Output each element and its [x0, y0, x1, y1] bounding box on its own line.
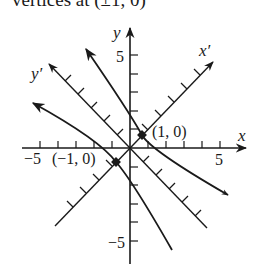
hyperbola-diagram: x y x′ y′ −5 5 5 −5 (1, 0) (−1, 0)	[0, 0, 260, 272]
y-prime-axis-label: y′	[29, 64, 43, 83]
x-prime-axis	[55, 62, 213, 226]
x-axis-label: x	[237, 126, 246, 145]
vertex-pos-label: (1, 0)	[152, 123, 187, 141]
hyperbola-upper-branch	[86, 49, 228, 195]
y-axis-label: y	[111, 23, 121, 42]
x-tick-label-pos5: 5	[215, 151, 223, 168]
vertex-neg-label: (−1, 0)	[52, 150, 96, 168]
x-prime-axis-label: x′	[198, 41, 211, 60]
x-tick-label-neg5: −5	[24, 150, 41, 167]
y-prime-axis	[49, 64, 207, 228]
y-tick-label-pos5: 5	[116, 48, 124, 65]
y-tick-label-neg5: −5	[108, 234, 125, 251]
